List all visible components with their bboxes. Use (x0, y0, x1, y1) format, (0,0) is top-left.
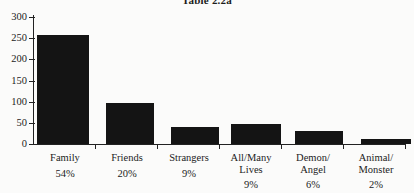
y-axis-tick-label: 0 (0, 139, 27, 150)
bar-family (37, 35, 89, 144)
bar-all-many-lives (231, 124, 281, 144)
y-axis-tick-label: 300 (0, 12, 27, 23)
bar-friends (106, 103, 154, 144)
x-axis-tick (157, 144, 158, 149)
x-axis-tick (219, 144, 220, 149)
category-animal-monster: Animal/ Monster 2% (344, 152, 408, 191)
category-label: All/Many Lives (220, 152, 282, 175)
category-strangers: Strangers 9% (158, 152, 220, 179)
category-percent: 6% (282, 179, 344, 191)
category-percent: 9% (220, 179, 282, 191)
category-label: Friends (96, 152, 158, 164)
bar-animal-monster (361, 139, 411, 144)
category-label: Animal/ Monster (344, 152, 408, 175)
bar-chart: Table 2.2a 300 250 200 150 100 50 0 Fami… (0, 0, 414, 193)
category-label: Demon/ Angel (282, 152, 344, 175)
category-label: Family (34, 152, 96, 164)
category-all-many-lives: All/Many Lives 9% (220, 152, 282, 191)
x-axis-tick (281, 144, 282, 149)
y-axis-tick-label: 50 (0, 118, 27, 129)
category-percent: 54% (34, 168, 96, 180)
x-axis-tick (95, 144, 96, 149)
y-axis-tick (29, 144, 35, 145)
category-percent: 9% (158, 168, 220, 180)
category-friends: Friends 20% (96, 152, 158, 179)
y-axis-tick-label: 250 (0, 33, 27, 44)
x-axis-tick (343, 144, 344, 149)
x-axis-tick (405, 144, 406, 149)
bar-demon-angel (295, 131, 343, 144)
category-family: Family 54% (34, 152, 96, 179)
bar-strangers (171, 127, 219, 144)
chart-title: Table 2.2a (0, 0, 414, 6)
plot-area (34, 17, 406, 144)
y-axis-tick-label: 150 (0, 76, 27, 87)
category-demon-angel: Demon/ Angel 6% (282, 152, 344, 191)
y-axis-tick-label: 100 (0, 97, 27, 108)
category-label: Strangers (158, 152, 220, 164)
category-percent: 2% (344, 179, 408, 191)
category-percent: 20% (96, 168, 158, 180)
y-axis-tick-label: 200 (0, 54, 27, 65)
